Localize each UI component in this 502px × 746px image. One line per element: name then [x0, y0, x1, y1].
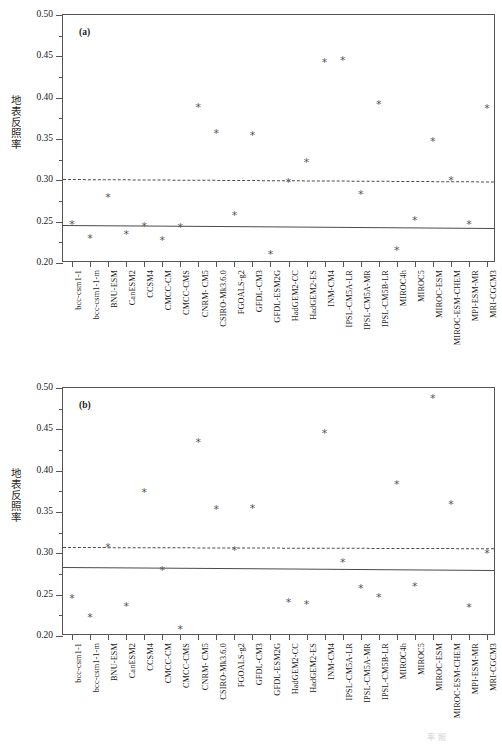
- x-tick-a: [252, 261, 253, 267]
- data-point: *: [392, 480, 401, 489]
- data-point: *: [320, 429, 329, 438]
- x-category-label: MIROC-ESM-CHEM: [453, 270, 462, 345]
- y-minor-tick-b: [59, 615, 63, 616]
- x-category-label: FGOALS-g2: [237, 270, 246, 314]
- x-category-label: IPSL-CM5A-MR: [363, 643, 372, 703]
- x-category-label: IPSL-CM5A-LR: [345, 643, 354, 700]
- y-tick-label-b: 0.50: [36, 382, 53, 392]
- x-axis-labels-b: bcc-csm1-1bcc-csm1-1-mBNU-ESMCanESM2CCSM…: [62, 643, 495, 743]
- data-point: *: [68, 220, 77, 229]
- x-tick-a: [198, 261, 199, 267]
- x-tick-a: [379, 261, 380, 267]
- x-tick-b: [289, 634, 290, 640]
- data-point: *: [374, 593, 383, 602]
- data-point: *: [320, 58, 329, 67]
- x-category-label: bcc-csm1-1-m: [92, 643, 101, 692]
- y-minor-tick-a: [59, 118, 63, 119]
- x-tick-b: [361, 634, 362, 640]
- data-point: *: [68, 594, 77, 603]
- x-axis-labels-a: bcc-csm1-1bcc-csm1-1-mBNU-ESMCanESM2CCSM…: [62, 270, 495, 370]
- x-category-label: GFDL-CM3: [255, 643, 264, 685]
- y-tick-label-a: 0.25: [36, 216, 53, 226]
- x-tick-a: [397, 261, 398, 267]
- y-tick-0.50-a: 0.50: [56, 15, 63, 16]
- x-category-label: MRI-CGCM3: [489, 270, 498, 318]
- data-point: *: [194, 103, 203, 112]
- data-point: *: [212, 129, 221, 138]
- x-category-label: IPSL-CM5B-LR: [381, 643, 390, 700]
- x-category-label: IPSL-CM5B-LR: [381, 270, 390, 327]
- y-tick-label-a: 0.45: [36, 50, 53, 60]
- x-tick-b: [216, 634, 217, 640]
- y-minor-tick-b: [59, 409, 63, 410]
- x-tick-a: [162, 261, 163, 267]
- x-category-label: BNU-ESM: [110, 270, 119, 308]
- x-category-label: CCSM4: [146, 270, 155, 298]
- data-point: *: [482, 549, 491, 558]
- x-tick-a: [289, 261, 290, 267]
- x-tick-a: [126, 261, 127, 267]
- data-point: *: [338, 558, 347, 567]
- y-tick-label-a: 0.30: [36, 174, 53, 184]
- x-category-label: IPSL-CM5A-MR: [363, 270, 372, 330]
- x-tick-a: [487, 261, 488, 267]
- x-category-label: bcc-csm1-1: [74, 643, 83, 683]
- x-category-label: HadGEM2-ES: [309, 270, 318, 320]
- data-point: *: [428, 394, 437, 403]
- x-tick-b: [379, 634, 380, 640]
- y-tick-0.30-b: 0.30: [56, 553, 63, 554]
- data-point: *: [284, 598, 293, 607]
- y-tick-0.20-a: 0.20: [56, 263, 63, 264]
- data-point: *: [140, 222, 149, 231]
- x-category-label: BNU-ESM: [110, 643, 119, 681]
- observation-mean-line-a: [63, 179, 494, 182]
- y-tick-0.35-b: 0.35: [56, 512, 63, 513]
- x-category-label: CNRM- CM5: [201, 643, 210, 690]
- x-tick-a: [144, 261, 145, 267]
- x-tick-b: [198, 634, 199, 640]
- x-tick-a: [270, 261, 271, 267]
- x-tick-a: [415, 261, 416, 267]
- x-tick-a: [469, 261, 470, 267]
- y-axis-title-a: 地表反照率: [2, 95, 20, 150]
- x-category-label: MIROC5: [417, 270, 426, 302]
- y-tick-label-a: 0.35: [36, 133, 53, 143]
- panel-b: 照率 地表反照率 (b) 0.200.250.300.350.400.450.5…: [0, 373, 502, 746]
- y-tick-label-b: 0.25: [36, 589, 53, 599]
- x-tick-a: [108, 261, 109, 267]
- data-point: *: [104, 193, 113, 202]
- y-tick-label-b: 0.35: [36, 506, 53, 516]
- data-point: *: [266, 250, 275, 259]
- data-point: *: [392, 246, 401, 255]
- data-point: *: [302, 600, 311, 609]
- model-mean-line-b: [63, 567, 494, 571]
- y-tick-0.25-a: 0.25: [56, 222, 63, 223]
- x-category-label: CMCC-CMS: [182, 270, 191, 315]
- x-category-label: bcc-csm1-1-m: [92, 270, 101, 319]
- data-point: *: [446, 500, 455, 509]
- data-point: *: [104, 543, 113, 552]
- x-tick-b: [469, 634, 470, 640]
- x-category-label: CCSM4: [146, 643, 155, 671]
- y-tick-0.40-b: 0.40: [56, 471, 63, 472]
- x-category-label: MRI-CGCM3: [489, 643, 498, 691]
- data-point: *: [194, 438, 203, 447]
- x-category-label: MIROC-ESM: [435, 643, 444, 691]
- x-tick-a: [180, 261, 181, 267]
- data-point: *: [464, 603, 473, 612]
- data-point: *: [140, 488, 149, 497]
- y-minor-tick-b: [59, 491, 63, 492]
- x-category-label: MPI-ESM-MR: [471, 643, 480, 694]
- y-tick-0.35-a: 0.35: [56, 139, 63, 140]
- data-point: *: [86, 613, 95, 622]
- plot-area-b: (b) 0.200.250.300.350.400.450.50********…: [62, 387, 495, 635]
- x-category-label: CSIRO-Mk3.6.0: [219, 270, 228, 327]
- x-tick-b: [108, 634, 109, 640]
- y-tick-0.20-b: 0.20: [56, 636, 63, 637]
- x-category-label: MIROC4h: [399, 643, 408, 679]
- x-category-label: CNRM- CM5: [201, 270, 210, 317]
- x-tick-b: [307, 634, 308, 640]
- x-tick-b: [234, 634, 235, 640]
- x-category-label: MIROC-ESM: [435, 270, 444, 318]
- x-tick-a: [451, 261, 452, 267]
